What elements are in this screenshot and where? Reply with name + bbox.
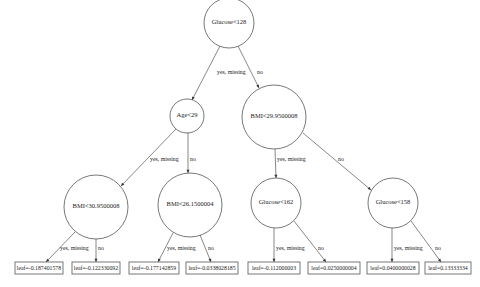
- edge-line: [294, 221, 326, 262]
- edge-label: yes, missing: [167, 245, 196, 251]
- edge-label: yes, missing: [394, 245, 423, 251]
- node-label: BMI<29.9500008: [251, 112, 298, 119]
- edge-n0-n2: no: [238, 46, 263, 88]
- edge-n4-l3: no: [200, 235, 214, 262]
- edge-line: [275, 149, 276, 178]
- edge-label: no: [435, 245, 441, 251]
- edge-label: no: [338, 156, 344, 162]
- edge-n0-n1: yes, missing: [192, 46, 246, 100]
- edge-label: yes, missing: [277, 156, 306, 162]
- arrowhead-icon: [95, 259, 98, 262]
- edge-line: [303, 133, 371, 190]
- arrowhead-icon: [391, 259, 394, 262]
- leaf-node-l2: leaf=-0.177142859: [129, 262, 179, 274]
- leaf-label: leaf=-0.177142859: [132, 265, 176, 271]
- split-node-n4: BMI<26.1500004: [158, 173, 222, 237]
- leaf-label: leaf=-0.112000003: [252, 265, 296, 271]
- leaf-label: leaf=-0.122330092: [74, 265, 118, 271]
- leaf-node-l3: leaf=-0.0338028185: [186, 262, 238, 274]
- edge-label: no: [257, 69, 263, 75]
- arrowhead-icon: [438, 259, 441, 262]
- leaf-label: leaf=-0.187401578: [17, 265, 61, 271]
- nodes-layer: Glucose<128Age<29BMI<29.9500008BMI<30.95…: [64, 0, 418, 239]
- node-label: Glucose<158: [376, 198, 411, 205]
- arrowhead-icon: [273, 259, 276, 262]
- edge-n5-l5: no: [294, 221, 326, 262]
- edge-n3-l1: no: [95, 239, 104, 262]
- edge-n1-n3: yes, missing: [121, 129, 179, 186]
- edge-label: no: [98, 245, 104, 251]
- leaf-label: leaf=0.13333334: [428, 265, 468, 271]
- edge-label: no: [318, 245, 324, 251]
- edge-n5-l4: yes, missing: [273, 228, 305, 262]
- leaves-layer: leaf=-0.187401578leaf=-0.122330092leaf=-…: [15, 262, 471, 274]
- leaf-node-l4: leaf=-0.112000003: [248, 262, 300, 274]
- edge-label: no: [190, 156, 196, 162]
- node-label: BMI<26.1500004: [167, 200, 215, 207]
- leaf-label: leaf=0.0400000028: [370, 265, 415, 271]
- edge-label: yes, missing: [150, 156, 179, 162]
- edge-line: [192, 46, 220, 100]
- split-node-n2: BMI<29.9500008: [242, 85, 306, 149]
- node-label: Age<29: [177, 111, 198, 118]
- split-node-n6: Glucose<158: [368, 178, 418, 228]
- edge-label: no: [208, 245, 214, 251]
- edge-n2-n6: no: [303, 133, 371, 190]
- edge-n1-n4: no: [187, 133, 196, 173]
- edge-line: [411, 221, 441, 262]
- arrowhead-icon: [187, 170, 190, 173]
- leaf-node-l1: leaf=-0.122330092: [72, 262, 120, 274]
- edge-n2-n5: yes, missing: [274, 149, 305, 178]
- split-node-n3: BMI<30.9500008: [64, 175, 128, 239]
- edge-label: yes, missing: [276, 245, 305, 251]
- edge-n3-l0: yes, missing: [46, 232, 89, 262]
- leaf-node-l6: leaf=0.0400000028: [367, 262, 419, 274]
- edge-label: yes, missing: [217, 69, 246, 75]
- node-label: Glucose<128: [212, 18, 247, 25]
- leaf-node-l0: leaf=-0.187401578: [15, 262, 63, 274]
- edge-label: yes, missing: [60, 245, 89, 251]
- split-node-n1: Age<29: [170, 99, 204, 133]
- decision-tree-diagram: yes, missingnoyes, missingnoyes, missing…: [0, 0, 480, 287]
- node-label: BMI<30.9500008: [73, 202, 120, 209]
- node-label: Glucose<162: [259, 198, 294, 205]
- edge-n6-l7: no: [411, 221, 441, 262]
- edge-line: [238, 46, 259, 88]
- edge-n6-l6: yes, missing: [391, 228, 423, 262]
- split-node-n5: Glucose<162: [251, 178, 301, 228]
- arrowhead-icon: [274, 175, 277, 178]
- leaf-label: leaf=-0.0338028185: [188, 265, 235, 271]
- leaf-label: leaf=0.0250000004: [311, 265, 356, 271]
- split-node-n0: Glucose<128: [204, 0, 254, 48]
- leaf-node-l5: leaf=0.0250000004: [308, 262, 360, 274]
- leaf-node-l7: leaf=0.13333334: [425, 262, 471, 274]
